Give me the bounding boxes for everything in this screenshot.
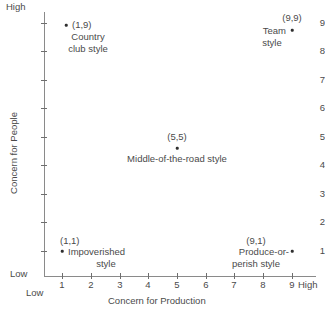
y-tick-label-3: 3	[293, 189, 325, 199]
y-axis-title: Concern for People	[9, 83, 19, 223]
y-tick-2	[41, 222, 47, 223]
y-tick-label-7: 7	[293, 75, 325, 85]
data-point-1-9-name-line2: club style	[68, 43, 108, 55]
data-point-5-5	[176, 147, 179, 150]
x-axis-title: Concern for Production	[108, 296, 206, 306]
y-tick-label-2: 2	[293, 217, 325, 227]
y-tick-1	[41, 251, 47, 252]
data-point-1-9-name-line1: Country	[71, 31, 104, 43]
y-tick-5	[41, 137, 47, 138]
y-tick-label-8: 8	[293, 46, 325, 56]
y-axis-high-label: High	[6, 2, 26, 12]
data-point-1-9	[65, 24, 68, 27]
y-tick-label-1: 1	[293, 246, 325, 256]
y-tick-label-6: 6	[293, 103, 325, 113]
y-tick-6	[41, 108, 47, 109]
y-tick-9	[41, 23, 47, 24]
y-tick-label-4: 4	[293, 160, 325, 170]
x-tick-label-4: 4	[136, 280, 160, 290]
x-axis-low-label: Low	[26, 288, 43, 298]
data-point-9-9-coord: (9,9)	[282, 12, 302, 24]
x-tick-label-5: 5	[165, 280, 189, 290]
x-tick-label-6: 6	[194, 280, 218, 290]
data-point-9-9-name-line2: style	[262, 37, 282, 49]
y-tick-4	[41, 165, 47, 166]
data-point-1-1-name-line1: Impoverished	[68, 246, 125, 258]
data-point-1-1-coord: (1,1)	[60, 235, 80, 247]
data-point-9-9-name-line1: Team	[250, 25, 286, 37]
data-point-9-9	[291, 29, 294, 32]
y-tick-3	[41, 194, 47, 195]
x-tick-label-8: 8	[251, 280, 275, 290]
y-tick-7	[41, 80, 47, 81]
x-tick-label-7: 7	[222, 280, 246, 290]
x-tick-label-1: 1	[50, 280, 74, 290]
y-tick-8	[41, 51, 47, 52]
data-point-1-1	[61, 250, 64, 253]
data-point-1-9-coord: (1,9)	[72, 19, 92, 31]
data-point-5-5-coord: (5,5)	[167, 131, 187, 143]
data-point-1-1-name-line2: style	[96, 258, 116, 270]
data-point-9-1-name-line1: Produce-or-	[222, 246, 289, 258]
data-point-5-5-name-line1: Middle-of-the-road style	[127, 153, 227, 165]
y-tick-label-5: 5	[293, 132, 325, 142]
data-point-9-1-coord: (9,1)	[246, 235, 266, 247]
data-point-9-1	[291, 250, 294, 253]
y-axis-low-label: Low	[10, 269, 27, 279]
x-tick-label-2: 2	[79, 280, 103, 290]
x-tick-label-3: 3	[108, 280, 132, 290]
data-point-9-1-name-line2: perish style	[232, 258, 280, 270]
x-axis-high-label: High	[298, 280, 318, 290]
x-axis-line	[44, 276, 316, 277]
managerial-grid-chart: 9 8 7 6 5 4 3 2 1 1 2 3 4 5 6 7 8 9 High…	[0, 0, 325, 311]
